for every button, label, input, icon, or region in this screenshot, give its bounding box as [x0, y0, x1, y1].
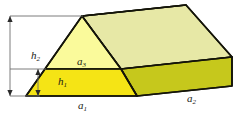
- label-a1-base: a: [78, 99, 84, 111]
- label-a3-base: a: [77, 55, 83, 67]
- label-a1: a1: [78, 100, 87, 111]
- label-h1-base: h: [58, 75, 64, 87]
- label-a2: a2: [187, 93, 196, 104]
- label-h2: h2: [31, 50, 40, 61]
- label-h2-subscript: 2: [37, 55, 41, 63]
- h2-arrow-bottom: [7, 90, 12, 96]
- label-a3: a3: [77, 56, 86, 67]
- label-h1: h1: [58, 76, 67, 87]
- label-a1-subscript: 1: [84, 105, 88, 113]
- h1-arrow-top: [35, 69, 40, 75]
- label-a3-subscript: 3: [83, 61, 87, 69]
- h2-arrow-top: [7, 16, 12, 22]
- label-a2-subscript: 2: [193, 98, 197, 106]
- label-h1-subscript: 1: [64, 81, 68, 89]
- label-a2-base: a: [187, 92, 193, 104]
- label-h2-base: h: [31, 49, 37, 61]
- geometry-figure: h2 h1 a3 a1 a2: [0, 0, 247, 117]
